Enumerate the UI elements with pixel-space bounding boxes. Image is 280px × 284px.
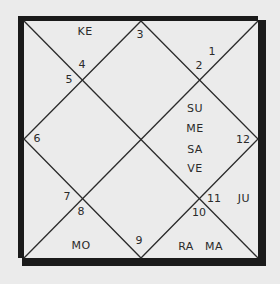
house-number-5: 5 (66, 74, 73, 86)
house-number-3: 3 (137, 29, 144, 41)
planet-venus: VE (187, 163, 202, 175)
house-number-2: 2 (196, 60, 203, 72)
planet-mars: MA (205, 241, 223, 253)
house-number-9: 9 (136, 235, 143, 247)
planet-moon: MO (71, 240, 90, 252)
planet-ketu: KE (77, 26, 92, 38)
house-number-11: 11 (207, 193, 221, 205)
planet-sun: SU (187, 103, 203, 115)
house-number-7: 7 (64, 191, 71, 203)
house-number-10: 10 (192, 207, 206, 219)
house-number-6: 6 (34, 133, 41, 145)
house-number-1: 1 (209, 46, 216, 58)
planet-mercury: ME (186, 123, 203, 135)
planet-jupiter: JU (238, 193, 250, 205)
house-number-4: 4 (79, 59, 86, 71)
birth-chart: 1 2 3 4 5 6 7 8 9 10 11 12 KE SU ME SA V… (0, 0, 280, 284)
house-number-8: 8 (78, 206, 85, 218)
house-number-12: 12 (236, 134, 250, 146)
planet-saturn: SA (187, 144, 203, 156)
planet-rahu: RA (178, 241, 194, 253)
